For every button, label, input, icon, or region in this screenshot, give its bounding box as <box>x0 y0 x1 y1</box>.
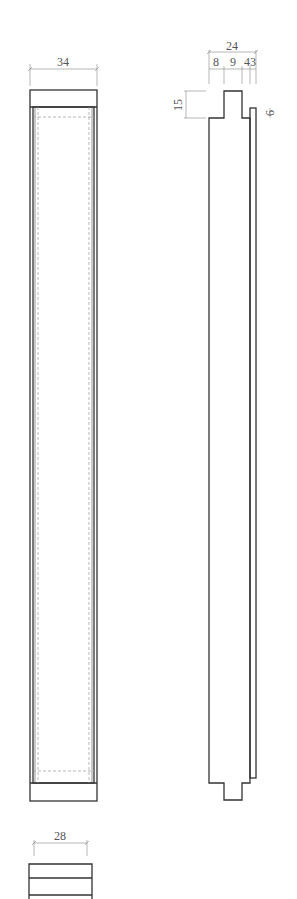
side-total-width-label: 24 <box>226 39 238 53</box>
front-view: 34 <box>28 55 99 801</box>
section-view: 28 <box>29 829 92 899</box>
technical-drawing: 34 24 8 9 43 15 <box>0 0 297 899</box>
segment-9-label: 9 <box>230 55 236 69</box>
tongue-height-label: 15 <box>171 99 185 111</box>
section-width-label: 28 <box>54 829 66 843</box>
front-width-label: 34 <box>57 55 69 69</box>
segment-8-label: 8 <box>213 55 219 69</box>
side-view: 24 8 9 43 15 6 <box>171 39 277 800</box>
panel-offset-label: 6 <box>263 110 277 116</box>
segment-43-label: 43 <box>244 55 256 69</box>
